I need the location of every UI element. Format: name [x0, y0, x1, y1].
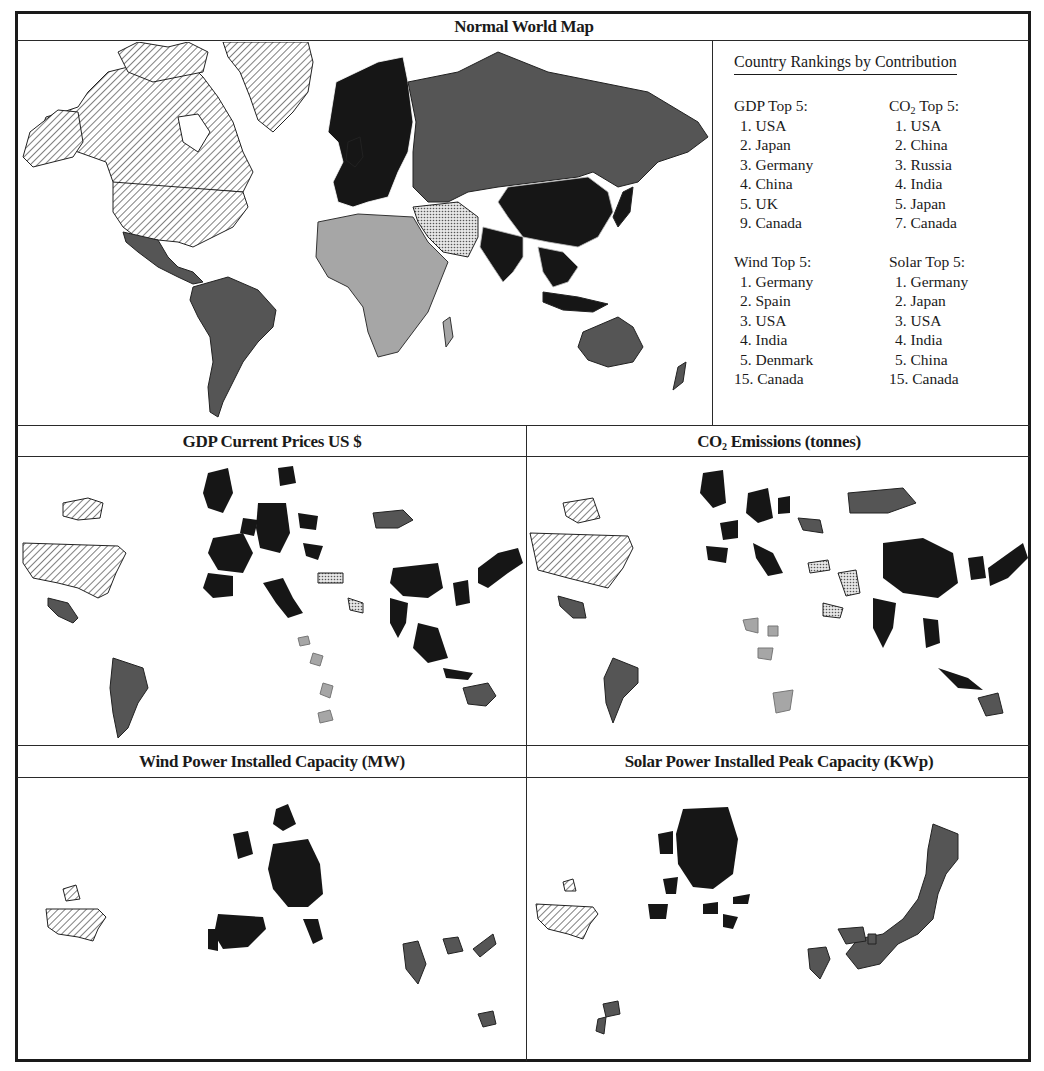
co2-ranking-title: CO2 Top 5: — [889, 96, 1039, 116]
ranking-item: 15. Canada — [889, 369, 1039, 389]
germany-shape — [746, 488, 773, 523]
gdp-map-title: GDP Current Prices US $ — [18, 428, 526, 456]
ranking-item: 9. Canada — [734, 213, 884, 233]
wind-ranking: Wind Top 5: 1. Germany 2. Spain 3. USA 4… — [734, 252, 884, 389]
canada-shape — [563, 498, 600, 523]
germany-shape — [676, 807, 738, 889]
gdp-ranking: GDP Top 5: 1. USA 2. Japan 3. Germany 4.… — [734, 96, 884, 233]
new-zealand-shape — [673, 362, 686, 390]
south-america-shape — [190, 277, 276, 417]
australia-shape — [463, 683, 496, 706]
korea-shape — [453, 580, 470, 606]
ranking-item: 3. Germany — [734, 155, 884, 175]
europe-shape — [328, 57, 413, 207]
gdp-cartogram — [18, 458, 525, 744]
normal-map-title: Normal World Map — [18, 13, 1030, 41]
russia-shape — [848, 488, 916, 513]
india-shape — [873, 598, 896, 648]
alaska-shape — [23, 110, 83, 167]
south-america-shape — [110, 658, 148, 738]
wind-cartogram — [18, 779, 525, 1061]
gdp-ranking-title: GDP Top 5: — [734, 96, 884, 116]
china-shape — [883, 538, 958, 598]
ranking-item: 2. Spain — [734, 291, 884, 311]
japan-shape — [846, 824, 958, 969]
india-shape — [390, 598, 408, 638]
germany-shape — [256, 503, 290, 553]
canada-shape — [63, 498, 103, 520]
row2-divider — [17, 745, 1030, 746]
ranking-item: 5. China — [889, 350, 1039, 370]
solar-map-title: Solar Power Installed Peak Capacity (KWp… — [528, 748, 1030, 776]
ranking-item: 7. Canada — [889, 213, 1039, 233]
legend-heading: Country Rankings by Contribution — [734, 52, 957, 75]
ranking-item: 15. Canada — [734, 369, 884, 389]
wind-map-title: Wind Power Installed Capacity (MW) — [18, 748, 526, 776]
column-divider-row2 — [526, 426, 527, 746]
ranking-item: 5. Denmark — [734, 350, 884, 370]
uk-shape — [233, 831, 253, 859]
greenland-shape — [223, 42, 313, 132]
canada-shape — [63, 885, 80, 901]
southeast-asia-shape — [923, 618, 983, 690]
solar-cartogram-graphic — [528, 779, 1030, 1061]
russia-shape — [373, 510, 413, 528]
indonesia-shape — [543, 292, 608, 312]
ranking-item: 2. China — [889, 135, 1039, 155]
ukraine-shape — [798, 518, 823, 533]
row3-title-divider — [17, 777, 1030, 778]
uk-shape — [203, 468, 233, 513]
japan-shape — [473, 934, 496, 957]
ranking-item: 2. Japan — [889, 291, 1039, 311]
ranking-item: 3. Russia — [889, 155, 1039, 175]
ranking-item: 1. Germany — [889, 272, 1039, 292]
france-shape — [208, 533, 253, 573]
denmark-shape — [273, 804, 296, 831]
spain-shape — [203, 573, 233, 598]
ranking-item: 4. China — [734, 174, 884, 194]
world-map-graphic — [18, 42, 711, 424]
ranking-item: 4. India — [889, 174, 1039, 194]
mexico-shape — [558, 596, 586, 618]
japan-shape — [988, 543, 1028, 586]
china-shape — [443, 937, 463, 954]
australia-shape — [578, 317, 643, 367]
korea-shape — [868, 934, 876, 944]
country-rankings-legend: Country Rankings by Contribution GDP Top… — [718, 52, 1028, 422]
south-america-shape — [604, 658, 638, 723]
russia-shape — [408, 52, 708, 202]
india-shape — [480, 227, 523, 282]
co2-ranking: CO2 Top 5: 1. USA 2. China 3. Russia 4. … — [889, 96, 1039, 233]
australia-shape — [978, 693, 1003, 716]
wind-cartogram-graphic — [18, 779, 525, 1061]
australia-shape — [478, 1011, 496, 1027]
china-shape — [838, 927, 866, 944]
co2-cartogram-graphic — [528, 458, 1030, 744]
south-america-shapes — [596, 1001, 620, 1034]
usa-shape — [530, 533, 633, 588]
china-shape — [390, 563, 443, 598]
africa-shapes — [743, 618, 793, 713]
korea-shape — [968, 556, 986, 580]
column-divider-row3 — [526, 746, 527, 1061]
ranking-item: 1. USA — [734, 116, 884, 136]
co2-map-title: CO2 Emissions (tonnes) — [528, 428, 1030, 456]
gdp-cartogram-graphic — [18, 458, 525, 744]
ranking-item: 4. India — [734, 330, 884, 350]
india-shape — [808, 947, 830, 979]
germany-shape — [268, 839, 323, 907]
ranking-item: 1. Germany — [734, 272, 884, 292]
italy-shape — [263, 578, 303, 618]
canada-shape — [563, 879, 576, 891]
ranking-item: 3. USA — [889, 311, 1039, 331]
row1-divider — [17, 425, 1030, 426]
legend-divider — [712, 41, 713, 426]
mexico-shape — [48, 598, 78, 623]
africa-dots — [298, 636, 333, 723]
ranking-item: 3. USA — [734, 311, 884, 331]
middle-east-shape — [318, 573, 363, 613]
usa-shape — [23, 543, 126, 598]
ranking-item: 5. UK — [734, 194, 884, 214]
southeast-asia-shape — [538, 247, 578, 287]
row2-title-divider — [17, 456, 1030, 457]
